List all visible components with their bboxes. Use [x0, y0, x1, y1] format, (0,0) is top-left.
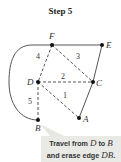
- vertex-f: [50, 43, 54, 47]
- step-callout: Travel from D to B and erase edge DB.: [41, 136, 121, 162]
- callout-text: Travel from: [49, 139, 90, 148]
- callout-text: .: [113, 151, 115, 160]
- label-f: F: [48, 31, 55, 41]
- callout-text: and erase edge: [47, 151, 101, 160]
- edge-fd-erased: [38, 45, 52, 82]
- edge-label-1: 1: [63, 91, 67, 100]
- callout-edge-db: DB: [101, 150, 113, 160]
- edge-label-2: 2: [61, 72, 65, 81]
- label-a: A: [82, 114, 89, 124]
- edge-label-3: 3: [76, 52, 80, 61]
- vertex-b: [36, 118, 40, 122]
- label-c: C: [96, 78, 103, 88]
- edge-label-4: 4: [36, 52, 40, 61]
- edge-fc-erased: [52, 45, 93, 82]
- edge-da-erased: [38, 82, 79, 118]
- label-d: D: [26, 77, 34, 87]
- callout-vertex-b: B: [107, 138, 113, 148]
- vertex-a: [77, 116, 81, 120]
- vertex-d: [36, 80, 40, 84]
- callout-line-2: and erase edge DB.: [41, 150, 121, 162]
- vertex-e: [100, 43, 104, 47]
- callout-pointer: [40, 124, 64, 136]
- vertex-c: [91, 80, 95, 84]
- edge-ca: [79, 82, 93, 118]
- callout-text: to: [96, 139, 107, 148]
- edge-ec: [93, 45, 102, 82]
- edge-label-5: 5: [28, 97, 32, 106]
- callout-line-1: Travel from D to B: [41, 138, 121, 150]
- label-b: B: [35, 123, 41, 133]
- label-e: E: [105, 40, 112, 50]
